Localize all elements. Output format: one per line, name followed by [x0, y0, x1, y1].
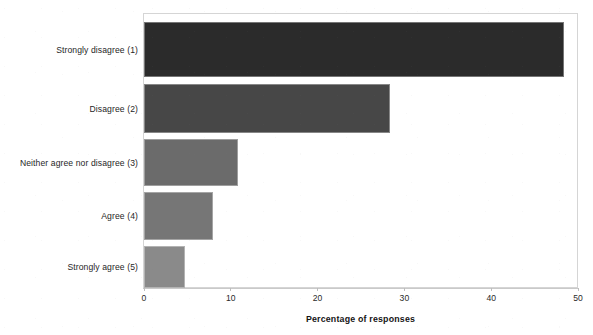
x-tick: 30: [384, 288, 424, 303]
x-tick-label: 20: [298, 293, 338, 303]
bar-1: [144, 22, 564, 77]
bar-chart: Strongly disagree (1)Disagree (2)Neither…: [0, 0, 593, 335]
x-tick-mark: [317, 288, 318, 291]
x-tick-mark: [230, 288, 231, 291]
category-label: Disagree (2): [5, 104, 138, 114]
x-tick-label: 40: [471, 293, 511, 303]
x-tick-layer: 01020304050: [0, 288, 593, 308]
x-tick-label: 50: [558, 293, 593, 303]
x-tick-label: 0: [124, 293, 164, 303]
bars-layer: [144, 14, 578, 288]
x-tick: 0: [124, 288, 164, 303]
bar-fill: [144, 192, 213, 240]
x-tick-mark: [144, 288, 145, 291]
bar-4: [144, 192, 213, 240]
x-tick: 10: [211, 288, 251, 303]
category-label-layer: Strongly disagree (1)Disagree (2)Neither…: [0, 14, 138, 288]
bar-fill: [144, 22, 564, 77]
category-label: Strongly agree (5): [5, 262, 138, 272]
bar-2: [144, 84, 390, 133]
x-tick: 50: [558, 288, 593, 303]
x-tick-label: 30: [384, 293, 424, 303]
x-tick: 40: [471, 288, 511, 303]
category-label: Strongly disagree (1): [5, 45, 138, 55]
x-tick-mark: [578, 288, 579, 291]
category-label: Agree (4): [5, 211, 138, 221]
bar-fill: [144, 246, 185, 288]
category-label: Neither agree nor disagree (3): [5, 158, 138, 168]
bar-5: [144, 246, 185, 288]
bar-fill: [144, 139, 238, 186]
x-tick-mark: [404, 288, 405, 291]
x-tick-mark: [491, 288, 492, 291]
bar-3: [144, 139, 238, 186]
x-tick-label: 10: [211, 293, 251, 303]
x-tick: 20: [298, 288, 338, 303]
bar-fill: [144, 84, 390, 133]
x-axis-title: Percentage of responses: [143, 314, 578, 324]
